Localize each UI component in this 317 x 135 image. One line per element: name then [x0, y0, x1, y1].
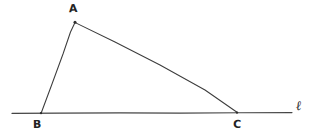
geometry-diagram: A B C ℓ — [0, 0, 317, 135]
line-l — [12, 113, 292, 114]
diagram-canvas — [0, 0, 317, 135]
vertex-label-a: A — [69, 3, 78, 14]
vertex-point-b — [40, 112, 42, 114]
segment-ab — [41, 23, 75, 114]
vertex-label-c: C — [233, 119, 242, 130]
segment-ac — [75, 23, 237, 113]
vertex-point-a — [74, 21, 77, 24]
vertex-point-c — [236, 111, 238, 113]
vertex-label-b: B — [33, 119, 42, 130]
line-label-l: ℓ — [296, 99, 302, 112]
